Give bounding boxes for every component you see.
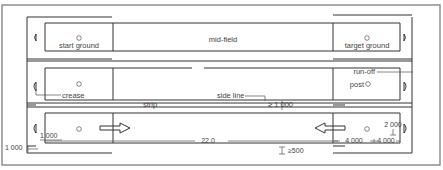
clearance-label: ≥ 1 000 <box>268 100 293 109</box>
mid-field-label: mid-field <box>209 35 237 44</box>
arrow-left-icon <box>315 123 345 133</box>
side-line-label: side line <box>217 91 245 100</box>
strip-3 <box>27 113 406 154</box>
pitch-length-label: 22.0 <box>201 137 215 144</box>
bottom-clearance-label: ≥500 <box>288 147 304 154</box>
dim-left-inner: 1 000 <box>40 132 58 139</box>
dim-right-a: 4 000 <box>345 137 363 144</box>
stump-marker-icon <box>77 36 82 41</box>
stump-marker-icon <box>365 36 370 41</box>
start-ground-label: start ground <box>59 41 99 50</box>
dim-right-top: 2 000 <box>384 121 402 128</box>
crease-label: crease <box>62 91 85 100</box>
crease-leader <box>36 91 61 95</box>
dim-left-outer: 1 000 <box>5 144 23 151</box>
pitch-diagram: start ground mid-field target ground cre… <box>0 0 443 170</box>
strip-label: strip <box>143 100 157 109</box>
dim-right-b: 4 000 <box>377 137 395 144</box>
stump-marker-icon <box>77 82 82 87</box>
arrow-right-icon <box>100 123 130 133</box>
target-ground-label: target ground <box>345 41 390 50</box>
stump-marker-icon <box>365 127 370 132</box>
stump-marker-icon <box>77 127 82 132</box>
post-label: post <box>350 80 365 89</box>
post-marker-icon <box>366 82 371 87</box>
run-off-label: run-off <box>353 67 375 76</box>
